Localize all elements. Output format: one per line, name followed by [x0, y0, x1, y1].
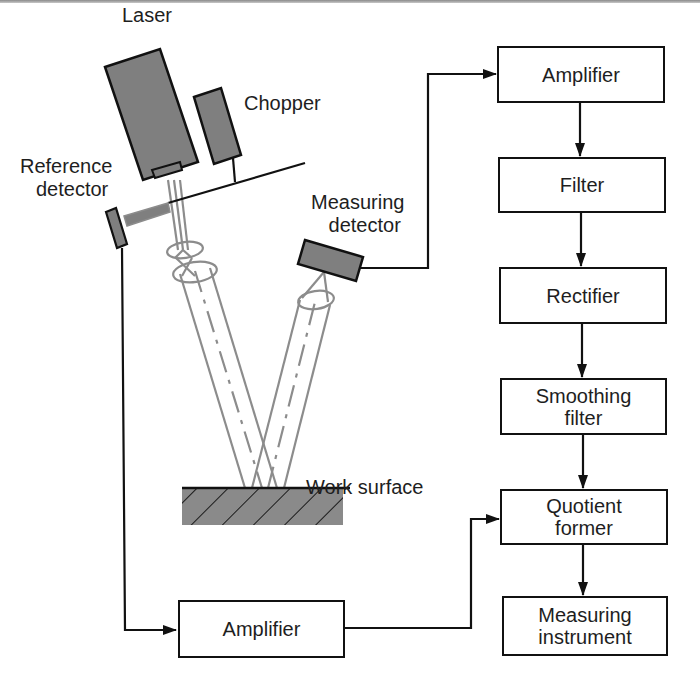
connector-reference-to-amplifier: [122, 248, 176, 630]
reference-detector-label: Reference detector: [20, 155, 112, 201]
reflected-beam: [252, 272, 330, 488]
amplifier-bottom-box: Amplifier: [178, 600, 345, 658]
measuring-detector-label: Measuring detector: [311, 191, 404, 237]
measuring-instrument-box: Measuring instrument: [502, 596, 668, 656]
laser-label: Laser: [122, 4, 172, 27]
work-surface-label: Work surface: [306, 476, 423, 499]
chopper-motor: [194, 88, 241, 164]
reference-beam-splitter-arm: [124, 203, 170, 226]
chopper-shaft: [233, 158, 235, 182]
focusing-lens-small: [166, 240, 204, 261]
rectifier-box: Rectifier: [499, 267, 667, 324]
measuring-detector-icon: [298, 240, 363, 281]
reference-detector-icon: [106, 208, 127, 248]
amplifier-top-box: Amplifier: [497, 46, 665, 103]
incident-beam: [168, 180, 277, 488]
connector-detector-to-amplifier: [360, 74, 496, 268]
chopper-label: Chopper: [244, 92, 321, 115]
quotient-former-box: Quotient former: [500, 489, 668, 545]
connector-amplifier-to-quotient: [345, 519, 499, 628]
filter-box: Filter: [498, 157, 666, 213]
laser-body: [105, 49, 198, 180]
smoothing-filter-box: Smoothing filter: [500, 378, 667, 435]
chopper-disk: [168, 163, 305, 203]
